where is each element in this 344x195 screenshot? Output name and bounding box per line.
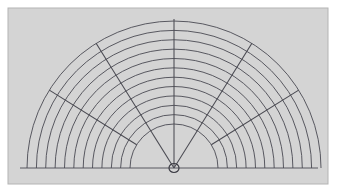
figure-root [0, 0, 344, 195]
fan-diagram-svg [0, 0, 344, 195]
